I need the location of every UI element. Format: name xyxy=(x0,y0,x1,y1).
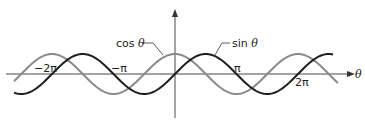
sin-label: sin θ xyxy=(232,37,258,50)
x-axis-arrow-icon xyxy=(347,71,355,77)
cos-label: cos θ xyxy=(116,37,145,50)
tick-negpi: −π xyxy=(111,62,127,75)
tick-2pi: 2π xyxy=(295,76,309,89)
cos-leader-line xyxy=(142,43,163,55)
tick-neg2pi: −2π xyxy=(34,62,57,75)
y-axis-arrow-icon xyxy=(172,9,178,17)
x-axis-label: θ xyxy=(355,68,362,81)
tick-pi: π xyxy=(234,62,241,75)
trig-plot: cos θ sin θ −2π −π π 2π θ xyxy=(0,0,365,125)
sin-leader-line xyxy=(215,43,230,55)
